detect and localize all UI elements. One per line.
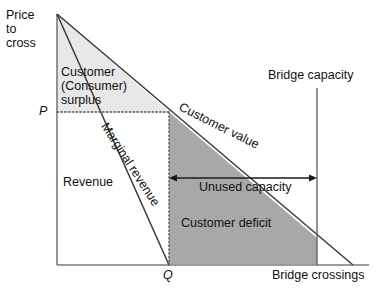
y-axis-title-line-1: Price bbox=[6, 8, 34, 22]
bridge-capacity-label: Bridge capacity bbox=[268, 68, 353, 82]
customer-deficit-label: Customer deficit bbox=[181, 216, 271, 230]
customer-surplus-label: Customer(Consumer)surplus bbox=[61, 65, 127, 107]
customer-surplus-label-line-2: (Consumer) bbox=[61, 79, 127, 93]
customer-surplus-label-line-1: Customer bbox=[61, 65, 115, 79]
revenue-label: Revenue bbox=[63, 175, 113, 189]
y-axis-title-line-2: to bbox=[6, 22, 16, 36]
figure-canvas: Pricetocross Bridge crossings Bridge cap… bbox=[0, 0, 381, 294]
customer-surplus-label-line-3: surplus bbox=[61, 93, 101, 107]
y-axis-title-line-3: cross bbox=[6, 36, 36, 50]
quantity-tick-label: Q bbox=[163, 268, 173, 282]
x-axis-title: Bridge crossings bbox=[272, 268, 364, 282]
y-axis-title: Pricetocross bbox=[6, 8, 36, 50]
unused-capacity-label: Unused capacity bbox=[199, 180, 291, 194]
economics-diagram-svg bbox=[0, 0, 381, 294]
price-tick-label: P bbox=[39, 104, 47, 118]
